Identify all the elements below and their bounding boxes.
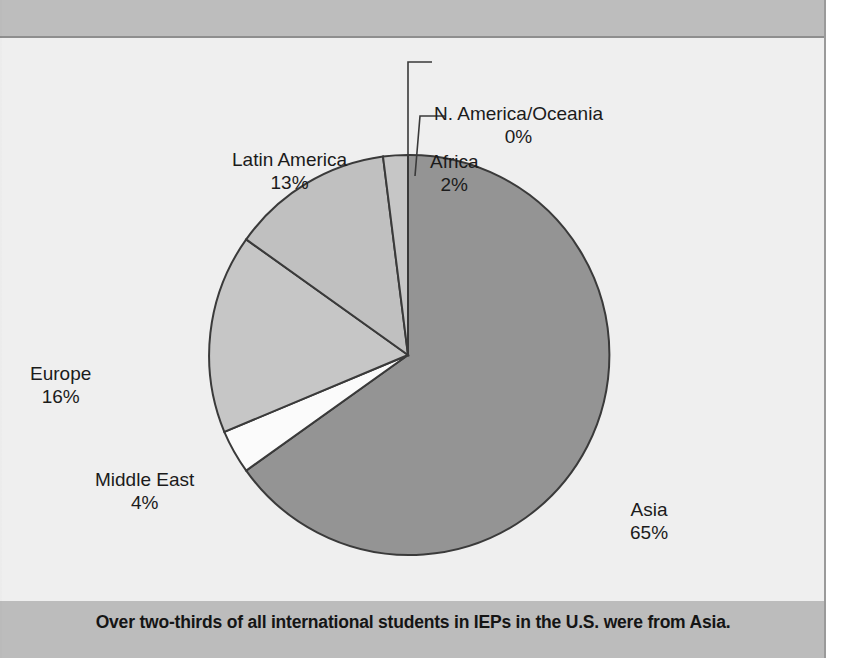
slice-label-percent: 13% xyxy=(232,171,347,194)
pie-chart-area: N. America/Oceania 0% Africa 2% Latin Am… xyxy=(0,40,826,600)
slice-label-latin-america: Latin America 13% xyxy=(232,148,347,194)
slice-label-percent: 65% xyxy=(630,521,668,544)
slice-label-percent: 0% xyxy=(434,125,603,148)
slice-label-name: Europe xyxy=(30,362,91,385)
slice-label-africa: Africa 2% xyxy=(430,150,479,196)
slice-label-name: Africa xyxy=(430,150,479,173)
scanned-page-panel: N. America/Oceania 0% Africa 2% Latin Am… xyxy=(0,0,826,658)
slice-label-europe: Europe 16% xyxy=(30,362,91,408)
slice-label-percent: 2% xyxy=(430,173,479,196)
slice-label-name: Asia xyxy=(630,498,668,521)
chart-caption: Over two-thirds of all international stu… xyxy=(0,612,826,633)
slice-label-asia: Asia 65% xyxy=(630,498,668,544)
leader-line-north-america-oceania xyxy=(408,62,432,157)
slice-label-name: N. America/Oceania xyxy=(434,102,603,125)
slice-label-name: Latin America xyxy=(232,148,347,171)
slice-label-percent: 4% xyxy=(95,491,194,514)
slice-label-middle-east: Middle East 4% xyxy=(95,468,194,514)
pie-chart-svg xyxy=(0,40,826,600)
slice-label-north-america-oceania: N. America/Oceania 0% xyxy=(434,102,603,148)
top-gray-band xyxy=(0,0,826,38)
slice-label-name: Middle East xyxy=(95,468,194,491)
slice-label-percent: 16% xyxy=(30,385,91,408)
page-root: N. America/Oceania 0% Africa 2% Latin Am… xyxy=(0,0,868,658)
